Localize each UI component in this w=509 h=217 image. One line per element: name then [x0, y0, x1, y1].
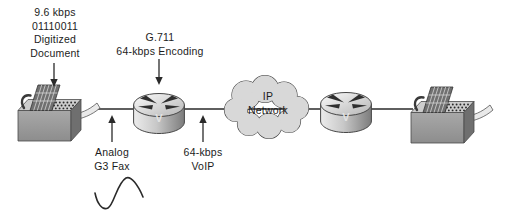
arrow-voip: [199, 115, 206, 142]
label-line: IP: [226, 90, 310, 104]
label-line: 64-kbps Encoding: [99, 45, 221, 59]
fax-machine-icon-right: [411, 87, 493, 143]
label-64kbps-voip: 64-kbps VoIP: [163, 146, 243, 173]
diagram-canvas: V V 9.6 kbps 01110011 Digitized Document…: [0, 0, 509, 217]
label-line: Digitized: [12, 33, 98, 47]
arrow-analog-fax: [108, 115, 115, 142]
fax-machine-icon-left: [18, 85, 100, 141]
label-g711-encoding: G.711 64-kbps Encoding: [99, 31, 221, 58]
arrow-encoding: [155, 59, 162, 85]
label-line: Document: [12, 47, 98, 61]
label-line: G.711: [99, 31, 221, 45]
label-analog-g3-fax: Analog G3 Fax: [72, 146, 152, 173]
sine-wave-icon: [95, 178, 143, 209]
label-digitized-document: 9.6 kbps 01110011 Digitized Document: [12, 6, 98, 60]
label-line: Analog: [72, 146, 152, 160]
arrow-digitized-document: [50, 63, 57, 87]
label-line: Network: [226, 104, 310, 118]
voice-badge-left: V: [155, 112, 163, 124]
label-line: G3 Fax: [72, 160, 152, 174]
label-ip-network: IP Network: [226, 90, 310, 117]
label-line: 01110011: [12, 20, 98, 34]
label-line: 9.6 kbps: [12, 6, 98, 20]
voice-badge-right: V: [342, 111, 350, 123]
label-line: 64-kbps: [163, 146, 243, 160]
label-line: VoIP: [163, 160, 243, 174]
